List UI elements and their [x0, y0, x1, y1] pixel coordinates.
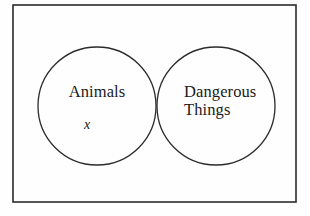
- set-label-animals: Animals: [0, 83, 194, 101]
- venn-diagram-canvas: [0, 0, 310, 216]
- set-label-dangerous-things: DangerousThings: [184, 83, 256, 120]
- figure-background: [0, 0, 310, 216]
- set-label-dangerous-things-line2: Things: [184, 101, 256, 119]
- element-marker-x: x: [0, 117, 174, 133]
- set-label-dangerous-things-line1: Dangerous: [184, 82, 256, 101]
- venn-diagram-figure: Animals DangerousThings x: [0, 0, 310, 216]
